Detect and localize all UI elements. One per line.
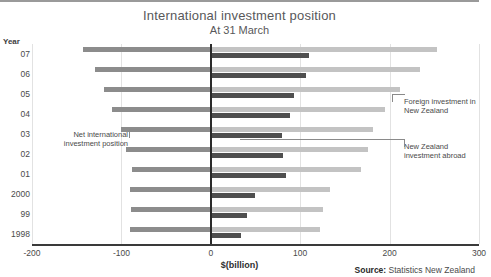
chart-row (32, 64, 479, 84)
chart-row (32, 164, 479, 184)
leader-line-abroad-vertical (404, 139, 405, 147)
bar-investment-abroad (211, 213, 247, 218)
bar-investment-abroad (211, 193, 256, 198)
bar-foreign-investment (211, 167, 361, 172)
annotation-foreign-investment: Foreign investment in New Zealand (404, 97, 476, 115)
chart-row (32, 44, 479, 64)
annotation-net-investment-position: Net international investment position (36, 130, 128, 148)
bar-investment-abroad (211, 173, 286, 178)
bar-net-position (112, 107, 210, 112)
leader-line-foreign (392, 94, 405, 95)
bar-foreign-investment (211, 67, 420, 72)
leader-line-net-vertical (129, 129, 130, 138)
leader-line-net (129, 129, 142, 130)
x-tick-label: 100 (280, 248, 320, 258)
bar-investment-abroad (211, 113, 291, 118)
bar-net-position (83, 47, 211, 52)
y-tick-label: 04 (0, 109, 30, 119)
y-tick-label: 1998 (0, 229, 30, 239)
bar-investment-abroad (211, 93, 294, 98)
x-tick-label: -100 (101, 248, 141, 258)
y-tick-label: 02 (0, 149, 30, 159)
x-tick-label: -200 (12, 248, 52, 258)
leader-line-abroad (240, 139, 405, 140)
x-tick-label: 300 (459, 248, 491, 258)
bar-foreign-investment (211, 207, 324, 212)
bar-net-position (131, 207, 211, 212)
y-tick-label: 01 (0, 169, 30, 179)
x-axis-line (32, 244, 479, 246)
gridline (479, 44, 480, 244)
bar-investment-abroad (211, 73, 306, 78)
chart-row (32, 224, 479, 244)
y-tick-label: 2000 (0, 189, 30, 199)
source-label: Source: (355, 265, 387, 275)
chart-subtitle: At 31 March (0, 24, 479, 36)
source-note: Source: Statistics New Zealand (355, 265, 475, 275)
bar-net-position (130, 227, 210, 232)
bar-investment-abroad (211, 153, 283, 158)
source-value: Statistics New Zealand (389, 265, 475, 275)
bar-investment-abroad (211, 53, 309, 58)
annotation-investment-abroad: New Zealand investment abroad (404, 142, 476, 160)
bar-foreign-investment (211, 47, 437, 52)
bar-net-position (104, 87, 211, 92)
y-tick-label: 99 (0, 209, 30, 219)
y-tick-label: 07 (0, 49, 30, 59)
y-tick-label: 03 (0, 129, 30, 139)
bar-net-position (130, 187, 210, 192)
bar-net-position (126, 147, 211, 152)
bar-foreign-investment (211, 227, 320, 232)
y-axis-tick-labels: 070605040302012000991998 (0, 44, 30, 244)
bar-investment-abroad (211, 133, 283, 138)
bar-foreign-investment (211, 87, 401, 92)
y-tick-label: 05 (0, 89, 30, 99)
chart-row (32, 184, 479, 204)
chart-row (32, 204, 479, 224)
bar-net-position (132, 167, 211, 172)
y-tick-label: 06 (0, 69, 30, 79)
zero-axis-line (210, 44, 212, 244)
leader-line-foreign-vertical (392, 94, 393, 102)
bar-foreign-investment (211, 107, 385, 112)
bar-foreign-investment (211, 187, 330, 192)
chart-title: International investment position (0, 8, 479, 23)
x-tick-label: 200 (370, 248, 410, 258)
bar-investment-abroad (211, 233, 241, 238)
bar-net-position (95, 67, 210, 72)
x-tick-label: 0 (191, 248, 231, 258)
bar-foreign-investment (211, 147, 368, 152)
bar-foreign-investment (211, 127, 373, 132)
